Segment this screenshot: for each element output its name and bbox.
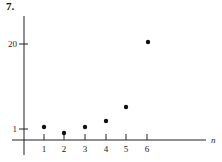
x-tick-label: 5 xyxy=(124,144,129,154)
x-tick-label: 1 xyxy=(42,144,47,154)
data-point xyxy=(83,125,87,129)
x-tick-label: 4 xyxy=(104,144,109,154)
x-tick-label: 6 xyxy=(145,144,150,154)
y-tick-label: 1 xyxy=(13,124,18,134)
x-tick-label: 3 xyxy=(83,144,88,154)
y-ticks: 201 xyxy=(8,39,28,134)
y-tick-label: 20 xyxy=(8,39,18,49)
x-tick-label: 2 xyxy=(62,144,67,154)
x-axis-label: n xyxy=(211,135,216,145)
x-ticks: 123456 xyxy=(42,134,150,154)
data-point xyxy=(62,131,66,135)
data-points xyxy=(42,40,150,135)
scatter-plot: n 123456 201 xyxy=(0,0,222,162)
data-point xyxy=(146,40,150,44)
data-point xyxy=(104,119,108,123)
data-point xyxy=(42,125,46,129)
data-point xyxy=(124,105,128,109)
